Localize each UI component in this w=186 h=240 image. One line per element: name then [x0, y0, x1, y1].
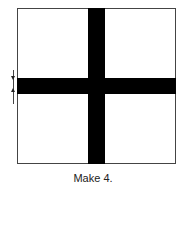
arrow-up-icon [11, 88, 15, 92]
caption: Make 4. [0, 172, 186, 184]
horizontal-strip [17, 78, 176, 94]
arrow-down-icon [11, 76, 15, 80]
